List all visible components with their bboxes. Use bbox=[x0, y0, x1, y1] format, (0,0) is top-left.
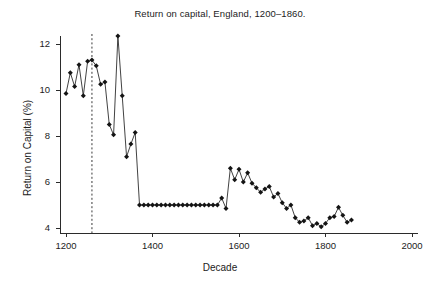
data-point-marker bbox=[336, 205, 341, 210]
data-point-marker bbox=[211, 203, 216, 208]
plot-area bbox=[0, 0, 440, 286]
data-point-marker bbox=[185, 203, 190, 208]
chart-figure: Return on capital, England, 1200–1860. R… bbox=[0, 0, 440, 286]
data-point-marker bbox=[172, 203, 177, 208]
series-markers bbox=[64, 33, 354, 229]
data-point-marker bbox=[349, 217, 354, 222]
data-point-marker bbox=[232, 177, 237, 182]
data-point-marker bbox=[219, 196, 224, 201]
data-point-marker bbox=[215, 203, 220, 208]
data-point-marker bbox=[81, 93, 86, 98]
data-point-marker bbox=[332, 214, 337, 219]
data-point-marker bbox=[310, 223, 315, 228]
data-point-marker bbox=[206, 203, 211, 208]
data-point-marker bbox=[98, 82, 103, 87]
data-point-marker bbox=[237, 167, 242, 172]
data-point-marker bbox=[85, 59, 90, 64]
data-point-marker bbox=[107, 122, 112, 127]
data-point-marker bbox=[154, 203, 159, 208]
data-point-marker bbox=[128, 142, 133, 147]
data-point-marker bbox=[224, 206, 229, 211]
data-point-marker bbox=[228, 166, 233, 171]
data-point-marker bbox=[159, 203, 164, 208]
data-point-marker bbox=[340, 213, 345, 218]
data-point-marker bbox=[120, 93, 125, 98]
data-point-marker bbox=[124, 154, 129, 159]
data-point-marker bbox=[150, 203, 155, 208]
data-point-marker bbox=[137, 203, 142, 208]
series-line-return-on-capital bbox=[66, 36, 351, 227]
data-point-marker bbox=[241, 180, 246, 185]
data-point-marker bbox=[68, 70, 73, 75]
data-point-marker bbox=[180, 203, 185, 208]
data-point-marker bbox=[72, 84, 77, 89]
data-point-marker bbox=[102, 79, 107, 84]
data-point-marker bbox=[193, 203, 198, 208]
data-point-marker bbox=[345, 220, 350, 225]
data-point-marker bbox=[163, 203, 168, 208]
data-point-marker bbox=[111, 132, 116, 137]
axes-group bbox=[56, 36, 418, 237]
data-point-marker bbox=[202, 203, 207, 208]
data-point-marker bbox=[146, 203, 151, 208]
data-point-marker bbox=[167, 203, 172, 208]
data-point-marker bbox=[267, 184, 272, 189]
data-point-marker bbox=[189, 203, 194, 208]
data-point-marker bbox=[176, 203, 181, 208]
data-point-marker bbox=[76, 62, 81, 67]
data-point-marker bbox=[141, 203, 146, 208]
data-point-marker bbox=[198, 203, 203, 208]
data-point-marker bbox=[115, 33, 120, 38]
data-point-marker bbox=[64, 91, 69, 96]
data-point-marker bbox=[245, 170, 250, 175]
data-point-marker bbox=[133, 130, 138, 135]
